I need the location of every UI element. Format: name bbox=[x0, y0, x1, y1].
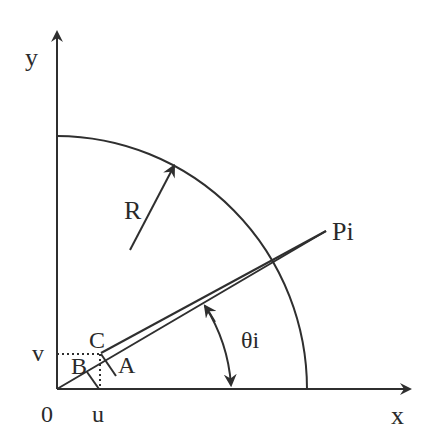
line-c-to-p bbox=[101, 231, 326, 353]
quarter-circle-diagram: y x 0 u v R Pi θi C A B bbox=[0, 0, 432, 440]
angle-theta-arc bbox=[205, 306, 231, 385]
diagram-canvas: y x 0 u v R Pi θi C A B bbox=[0, 0, 432, 440]
point-c-label: C bbox=[89, 327, 105, 353]
angle-tick-b bbox=[87, 372, 99, 389]
point-p-label: Pi bbox=[332, 217, 354, 246]
angle-theta-label: θi bbox=[241, 327, 259, 353]
point-b-label: B bbox=[71, 353, 87, 379]
angle-theta-arc-start bbox=[205, 306, 215, 322]
u-label: u bbox=[92, 401, 104, 427]
point-a-label: A bbox=[118, 352, 136, 378]
x-axis-label: x bbox=[391, 401, 404, 430]
y-axis-label: y bbox=[25, 43, 38, 72]
radius-label: R bbox=[124, 196, 142, 225]
v-label: v bbox=[32, 340, 44, 366]
perpendicular-c-to-a bbox=[101, 354, 116, 376]
ray-origin-to-p bbox=[57, 231, 326, 389]
origin-label: 0 bbox=[41, 401, 53, 427]
